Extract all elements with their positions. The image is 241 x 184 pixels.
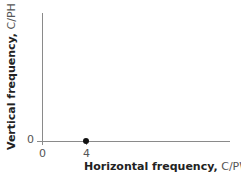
y-axis-label-unit: C/PH: [5, 3, 18, 33]
y-axis-label: Vertical frequency, C/PH: [5, 3, 18, 150]
y-axis: [42, 13, 43, 142]
x-axis-label-main: Horizontal frequency,: [84, 160, 218, 173]
x-axis-label: Horizontal frequency, C/PW: [84, 160, 241, 173]
x-tick-label-4: 4: [83, 147, 90, 160]
data-point: [83, 138, 89, 144]
x-axis-label-unit: C/PW: [218, 160, 241, 173]
x-axis: [37, 141, 230, 142]
y-axis-label-main: Vertical frequency,: [5, 33, 18, 150]
y-tick-label-0: 0: [27, 133, 34, 146]
x-tick-0: [42, 141, 43, 145]
x-tick-label-0: 0: [39, 147, 46, 160]
